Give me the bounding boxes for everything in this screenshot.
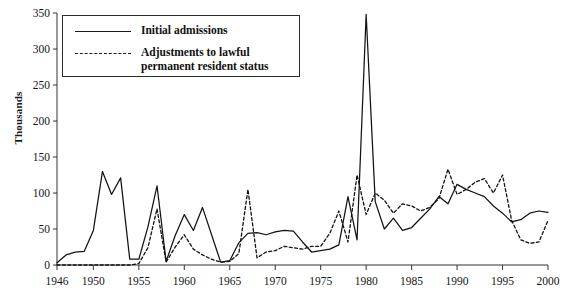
y-tick-label: 250 [14,79,50,91]
y-tick-label: 300 [14,43,50,55]
x-tick-label: 1950 [82,275,105,287]
chart-figure: Thousands 050100150200250300350 19461950… [0,0,564,305]
legend-label-adjustments: Adjustments to lawful permanent resident… [141,46,301,73]
y-tick-label: 350 [14,7,50,19]
x-tick-label: 1985 [400,275,423,287]
y-tick-label: 0 [14,259,50,271]
x-tick-label: 2000 [537,275,560,287]
legend-swatch-solid-line [75,31,131,32]
series-line-adjustments [57,169,548,265]
y-tick-label: 150 [14,151,50,163]
legend-swatch-dashed-line [75,53,131,54]
x-tick-label: 1975 [309,275,332,287]
y-tick-label: 100 [14,187,50,199]
legend-label-initial-admissions: Initial admissions [141,24,301,38]
x-tick-label: 1990 [446,275,469,287]
chart-legend: Initial admissions Adjustments to lawful… [62,15,300,77]
x-tick-label: 1955 [127,275,150,287]
x-tick-label: 1965 [218,275,241,287]
x-tick-label: 1970 [264,275,287,287]
x-tick-label: 1946 [46,275,69,287]
y-tick-label: 50 [14,223,50,235]
x-tick-label: 1980 [355,275,378,287]
x-tick-label: 1960 [173,275,196,287]
x-tick-label: 1995 [491,275,514,287]
y-tick-label: 200 [14,115,50,127]
